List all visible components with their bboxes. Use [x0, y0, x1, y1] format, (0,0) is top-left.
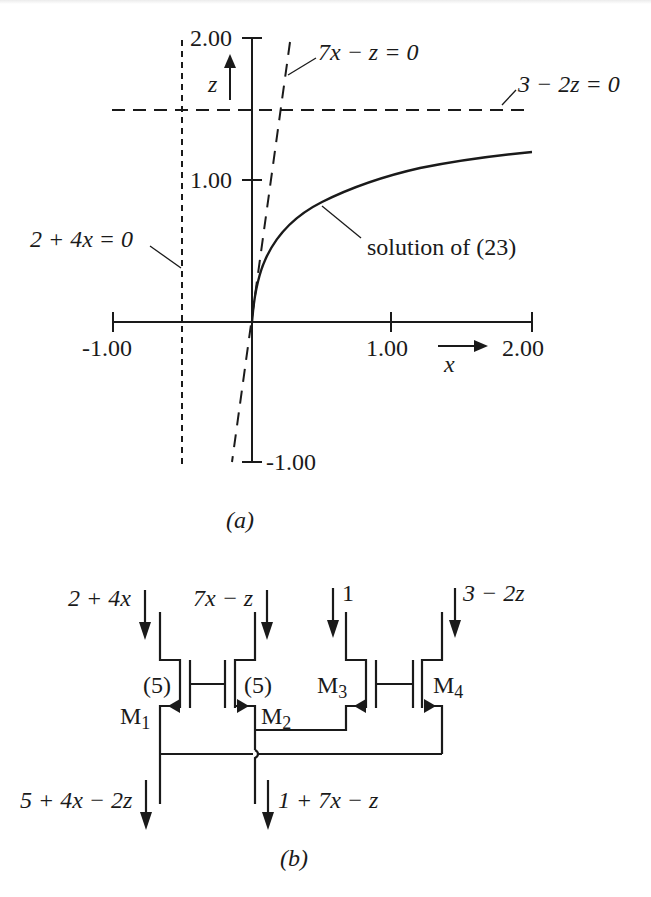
- ratio-label-m2: (5): [244, 672, 272, 698]
- line-7x-minus-z: [232, 42, 290, 462]
- m2-source-arrow-icon: [237, 699, 249, 713]
- x-tick-label-minus1: -1.00: [82, 335, 132, 361]
- current-label-out-right: 1 + 7x − z: [278, 787, 379, 813]
- current-label-m1: 2 + 4x: [68, 585, 131, 611]
- arrow-down-icon-m3: [327, 588, 339, 638]
- transistor-label-m4: M4: [433, 672, 463, 702]
- m3-source-arrow-icon: [354, 699, 366, 713]
- caption-a: (a): [226, 507, 254, 533]
- m2-source-hop: [255, 750, 258, 804]
- m2-source: [235, 706, 255, 750]
- arrow-down-icon-m1: [139, 590, 151, 640]
- current-label-m4: 3 − 2z: [462, 580, 525, 606]
- arrow-down-icon-m4: [449, 588, 461, 638]
- z-arrow-icon: [224, 54, 236, 100]
- m3-drain: [346, 612, 366, 708]
- z-axis-label: z: [207, 71, 218, 97]
- leader-7x: [288, 58, 316, 75]
- x-tick-label-2: 2.00: [502, 335, 544, 361]
- annotation-2-plus-4x: 2 + 4x = 0: [30, 226, 133, 252]
- transistor-label-m1: M1: [120, 703, 150, 733]
- z-tick-label-1: 1.00: [190, 167, 232, 193]
- annotation-7x-minus-z: 7x − z = 0: [318, 39, 418, 65]
- circuit-wires: [160, 612, 442, 804]
- x-tick-label-1: 1.00: [366, 335, 408, 361]
- current-label-m3: 1: [342, 580, 354, 606]
- caption-b: (b): [280, 845, 308, 871]
- current-label-m2: 7x − z: [193, 585, 254, 611]
- transistor-label-m2: M2: [261, 703, 291, 733]
- leader-3-2z: [502, 90, 516, 105]
- ratio-label-m1: (5): [143, 672, 171, 698]
- arrow-down-icon-m2: [261, 590, 273, 640]
- m4-source: [424, 706, 442, 754]
- leader-curve: [322, 206, 361, 238]
- source-arrow-icons: [168, 699, 436, 713]
- arrow-down-icon-out-left: [140, 780, 152, 830]
- m1-source-arrow-icon: [168, 699, 180, 713]
- z-tick-label-2: 2.00: [190, 25, 232, 51]
- x-axis-label: x: [443, 351, 455, 377]
- transistor-label-m3: M3: [317, 672, 347, 702]
- annotation-3-minus-2z: 3 − 2z = 0: [517, 71, 620, 97]
- arrow-down-icon-out-right: [262, 780, 274, 830]
- figure-a-plot: -1.00 1.00 2.00 2.00 1.00 -1.00 z x 7x −…: [0, 0, 651, 897]
- z-axis: [242, 38, 262, 462]
- current-label-out-left: 5 + 4x − 2z: [20, 787, 133, 813]
- annotation-solution: solution of (23): [367, 234, 516, 260]
- leader-2-4x: [150, 246, 181, 268]
- x-axis: [113, 312, 532, 332]
- z-tick-label-minus1: -1.00: [266, 449, 316, 475]
- m4-source-arrow-icon: [424, 699, 436, 713]
